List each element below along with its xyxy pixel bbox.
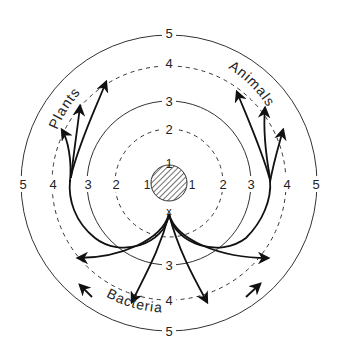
label-4-bottom: 4 [165, 293, 172, 308]
label-5-right: 5 [312, 177, 319, 192]
plants-branch-1 [62, 130, 71, 182]
label-2-top: 2 [165, 122, 172, 137]
label-4-left: 4 [49, 177, 56, 192]
bacteria-arrow-right [246, 284, 260, 297]
plants-branch-2 [71, 106, 80, 178]
label-3-left: 3 [84, 177, 91, 192]
animals-label: Animals [226, 57, 279, 109]
label-5-bottom: 5 [165, 324, 172, 339]
bacteria-arrow-left [80, 285, 92, 297]
label-3-right: 3 [247, 177, 254, 192]
label-3-bottom: 3 [165, 258, 172, 273]
label-5-top: 5 [165, 26, 172, 41]
bacteria-label: Bacteria [104, 285, 163, 316]
label-2-right: 2 [219, 177, 226, 192]
label-2-left: 2 [112, 177, 119, 192]
label-4-right: 4 [283, 177, 290, 192]
label-5-left: 5 [19, 177, 26, 192]
label-1-left: 1 [144, 178, 151, 192]
label-1-top: 1 [166, 157, 173, 171]
label-4-top: 4 [165, 56, 172, 71]
label-3-top: 3 [165, 94, 172, 109]
concentric-evolution-diagram: 5 4 3 2 1 5 4 3 2 1 1 2 3 4 5 3 4 5 x [0, 0, 338, 360]
label-1-right: 1 [189, 178, 196, 192]
